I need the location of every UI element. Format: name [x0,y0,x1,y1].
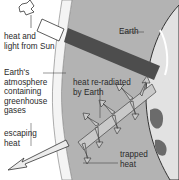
trapped-label: trapped heat [120,150,148,169]
reradiated-label: heat re-radiated by Earth [73,78,131,97]
escaping-label: escaping heat [4,129,37,148]
atmosphere-label: Earth's atmosphere containing greenhouse… [4,68,47,116]
greenhouse-diagram: heat and light from Sun Earth Earth's at… [0,0,179,180]
earth-label: Earth [119,27,139,37]
sun-icon [19,0,34,15]
sun-label: heat and light from Sun [4,32,55,51]
